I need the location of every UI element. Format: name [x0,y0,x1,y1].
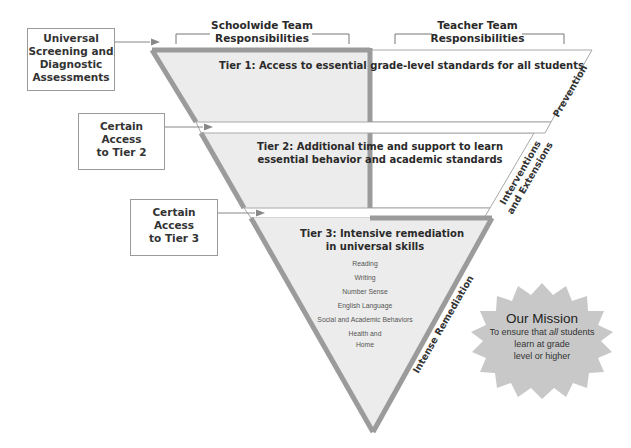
certain-access-tier2-box: Certain Access to Tier 2 [78,113,165,170]
skill-item: Reading [310,257,421,271]
box-line: Diagnostic [28,58,114,71]
tier2-title: Tier 2: Additional time and support to l… [250,140,510,166]
skill-item: Number Sense [310,285,421,299]
skill-item: Writing [310,271,421,285]
box-line: Universal [28,32,114,45]
mission-line1-pre: To ensure that [489,327,549,337]
schoolwide-header: Schoolwide Team Responsibilities [200,19,324,45]
certain-access-tier3-box: Certain Access to Tier 3 [130,199,218,256]
teacher-header-line1: Teacher Team [420,19,535,32]
tier3-title-line1: Tier 3: Intensive remediation [300,227,450,240]
mission-line2: learn at grade [486,338,598,350]
box-line: Screening and [28,45,114,58]
skill-item: English Language [310,299,421,313]
teacher-header: Teacher Team Responsibilities [420,19,535,45]
universal-screening-box: Universal Screening and Diagnostic Asses… [27,28,115,91]
tier1-title: Tier 1: Access to essential grade-level … [219,59,584,72]
box-line: Certain Access [131,206,217,232]
box-line: to Tier 2 [79,146,164,159]
teacher-header-line2: Responsibilities [420,32,535,45]
mission-line1-post: students [558,327,595,337]
tier3-skills-list: Reading Writing Number Sense English Lan… [300,257,430,352]
mission-text: Our Mission To ensure that all students … [486,311,598,362]
tier2-title-line2: essential behavior and academic standard… [250,153,510,166]
box-line: to Tier 3 [131,232,217,245]
mission-line1-em: all [549,327,558,337]
skill-item: Social and Academic Behaviors [310,313,421,327]
schoolwide-header-line1: Schoolwide Team [200,19,324,32]
mission-line1: To ensure that all students [486,326,598,338]
tier2-title-line1: Tier 2: Additional time and support to l… [250,140,510,153]
box-line: Assessments [28,71,114,84]
mission-line3: level or higher [486,350,598,362]
tier2-access-band [196,122,551,133]
box-line: Certain Access [79,120,164,146]
mission-title: Our Mission [486,311,598,326]
tier3-title-line2: in universal skills [300,240,450,253]
tier3-title: Tier 3: Intensive remediation in univers… [300,227,450,253]
schoolwide-header-line2: Responsibilities [200,32,324,45]
skill-item: Home [310,338,421,352]
